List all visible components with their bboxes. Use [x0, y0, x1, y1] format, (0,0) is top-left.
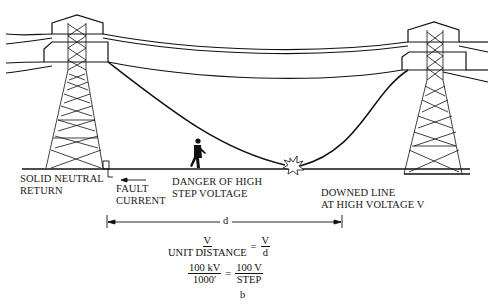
label-line: STEP VOLTAGE	[172, 188, 262, 200]
solid-neutral-return-label: SOLID NEUTRAL RETURN	[20, 173, 104, 197]
numerator: V	[261, 235, 271, 247]
denominator: STEP	[237, 274, 262, 285]
label-line: CURRENT	[116, 195, 166, 207]
equation-voltage-per-distance: V UNIT DISTANCE = V d	[168, 235, 270, 258]
step-voltage-danger-label: DANGER OF HIGH STEP VOLTAGE	[172, 176, 262, 200]
right-transmission-tower	[402, 22, 470, 174]
denominator: UNIT DISTANCE	[168, 247, 247, 258]
label-line: AT HIGH VOLTAGE V	[321, 199, 424, 211]
label-line: DOWNED LINE	[321, 187, 424, 199]
label-line: FAULT	[116, 183, 166, 195]
equation-step-voltage-example: 100 kV 1000′ = 100 V STEP	[188, 262, 263, 285]
denominator: 1000′	[193, 274, 216, 285]
numerator: 100 V	[235, 262, 263, 274]
numerator: 100 kV	[188, 262, 221, 274]
label-line: RETURN	[20, 185, 104, 197]
label-line: SOLID NEUTRAL	[20, 173, 104, 185]
person-silhouette-icon	[190, 138, 206, 168]
subfigure-label: b	[240, 289, 245, 301]
equals-sign: =	[250, 241, 258, 252]
fault-current-arrow	[108, 169, 146, 182]
downed-line-label: DOWNED LINE AT HIGH VOLTAGE V	[321, 187, 424, 211]
equals-sign: =	[224, 268, 232, 279]
fault-current-label: FAULT CURRENT	[116, 183, 166, 207]
left-transmission-tower	[44, 15, 109, 169]
fraction-lhs: V UNIT DISTANCE	[168, 235, 247, 258]
numerator: V	[203, 235, 213, 247]
label-line: DANGER OF HIGH	[172, 176, 262, 188]
fraction-lhs: 100 kV 1000′	[188, 262, 221, 285]
fraction-rhs: V d	[261, 235, 271, 258]
fraction-rhs: 100 V STEP	[235, 262, 263, 285]
distance-label: d	[223, 215, 228, 227]
denominator: d	[263, 247, 268, 258]
